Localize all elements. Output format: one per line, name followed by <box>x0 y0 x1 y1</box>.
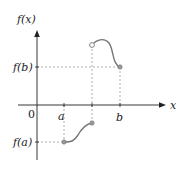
y-axis-label: f(x) <box>16 13 36 26</box>
y-axis-arrow-icon <box>34 30 40 37</box>
origin-label: 0 <box>28 108 35 121</box>
x-axis-label: x <box>170 99 177 112</box>
lower-curve <box>64 123 92 142</box>
x-tick-label-a: a <box>58 110 65 123</box>
point-jump-closed <box>90 121 94 125</box>
function-graph: f(x) x 0 a b f(b) f(a) <box>0 0 181 169</box>
point-fb-closed <box>118 65 122 69</box>
y-tick-label-fa: f(a) <box>12 136 32 149</box>
x-tick-label-b: b <box>116 111 123 124</box>
x-axis-arrow-icon <box>159 102 166 108</box>
point-fa-closed <box>62 140 66 144</box>
upper-curve <box>92 40 120 67</box>
y-tick-label-fb: f(b) <box>12 61 33 74</box>
guide-lines <box>37 45 120 142</box>
point-jump-open <box>90 43 95 48</box>
